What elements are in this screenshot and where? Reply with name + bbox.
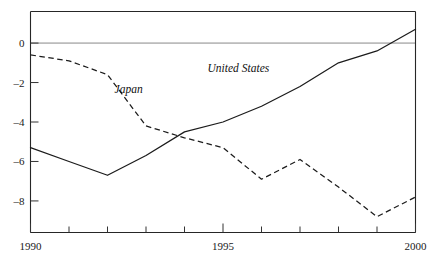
line-chart-canvas: 199019952000 0–2–4–6–8 JapanUnited State… [0,0,432,268]
annotation-united-states: United States [208,62,270,74]
y-tick-label-neg2: –2 [13,77,25,89]
x-tick-label-1990: 1990 [20,240,43,252]
y-tick-label-neg6: –6 [13,155,26,167]
chart-figure: 199019952000 0–2–4–6–8 JapanUnited State… [0,0,432,268]
x-tick-label-1995: 1995 [212,240,235,252]
annotation-japan: Japan [115,83,143,96]
y-tick-label-neg8: –8 [13,195,26,207]
chart-background [0,0,432,268]
x-tick-label-2000: 2000 [405,240,428,252]
y-tick-label-0: 0 [19,37,25,49]
y-tick-label-neg4: –4 [13,116,26,128]
